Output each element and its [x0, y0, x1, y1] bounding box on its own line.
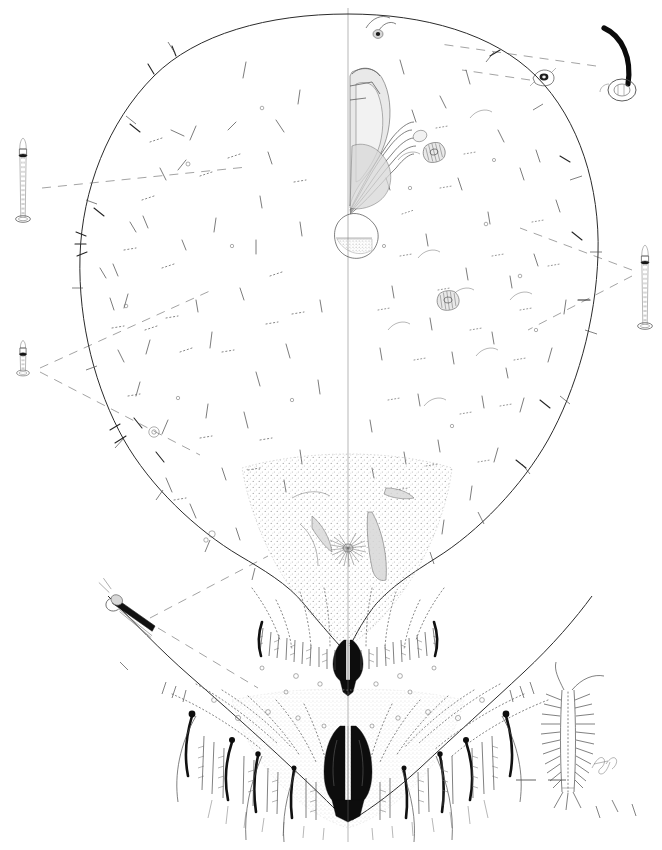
illustration-plate: Coccid scale insect — adult female habit…	[0, 0, 662, 850]
plate-svg	[0, 0, 662, 850]
